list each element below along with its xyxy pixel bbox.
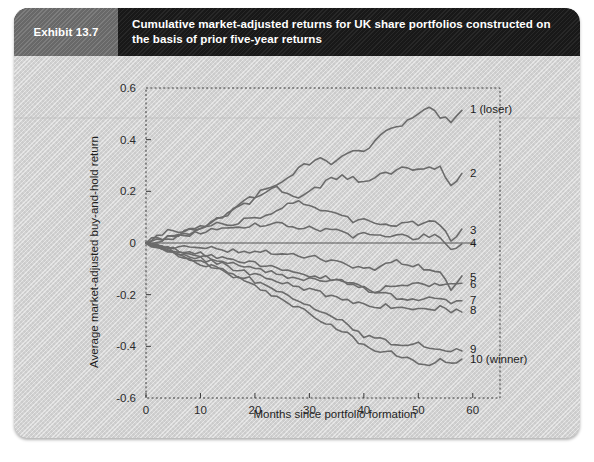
y-tick-label: 0.6 (120, 82, 136, 94)
y-axis-title: Average market-adjusted buy-and-hold ret… (88, 136, 100, 368)
x-tick-label: 0 (143, 404, 149, 416)
y-tick-label: 0.2 (120, 185, 136, 197)
exhibit-header: Exhibit 13.7 Cumulative market-adjusted … (14, 8, 580, 56)
series-line-4 (146, 222, 462, 249)
series-label-2: 2 (470, 167, 476, 179)
exhibit-page: Exhibit 13.7 Cumulative market-adjusted … (0, 0, 594, 462)
line-chart: 1 (loser)2345678910 (winner) 01020304050… (14, 56, 580, 438)
y-tick-label: -0.2 (116, 289, 136, 301)
series-label-4: 4 (470, 237, 477, 249)
series-lines (146, 107, 462, 365)
y-tick-label: 0 (130, 237, 136, 249)
y-axis-tick-labels: 0.60.40.20-0.2-0.4-0.6 (116, 82, 136, 404)
series-line-9 (146, 243, 462, 352)
series-line-6 (146, 243, 462, 292)
series-end-labels: 1 (loser)2345678910 (winner) (470, 103, 528, 366)
series-line-7 (146, 243, 462, 304)
chart-area: 1 (loser)2345678910 (winner) 01020304050… (14, 56, 580, 438)
exhibit-title: Cumulative market-adjusted returns for U… (118, 8, 580, 56)
x-axis-ticks (146, 393, 473, 398)
y-tick-label: 0.4 (120, 134, 137, 146)
x-tick-label: 60 (466, 404, 479, 416)
y-tick-label: -0.4 (116, 340, 136, 352)
series-label-10-winner-: 10 (winner) (470, 353, 528, 365)
series-label-1-loser-: 1 (loser) (470, 103, 512, 115)
series-label-6: 6 (470, 278, 476, 290)
exhibit-card: Exhibit 13.7 Cumulative market-adjusted … (14, 8, 580, 438)
exhibit-number-tag: Exhibit 13.7 (14, 8, 118, 56)
series-line-3 (146, 201, 462, 243)
series-label-3: 3 (470, 224, 476, 236)
x-tick-label: 10 (194, 404, 207, 416)
y-tick-label: -0.6 (116, 392, 136, 404)
series-label-8: 8 (470, 304, 476, 316)
x-axis-title: Months since portfolio formation (254, 408, 417, 420)
